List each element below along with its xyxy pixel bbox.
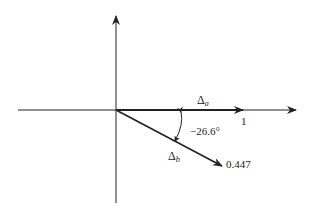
vector-a-label: Δa — [197, 93, 209, 108]
magnitude-a-label: 1 — [241, 115, 247, 127]
phasor-diagram: Δa 1 −26.6° Δb 0.447 — [0, 0, 312, 216]
magnitude-b-label: 0.447 — [226, 158, 251, 170]
angle-label: −26.6° — [190, 125, 220, 137]
angle-arc — [175, 112, 182, 141]
vector-b-label: Δb — [168, 149, 180, 164]
